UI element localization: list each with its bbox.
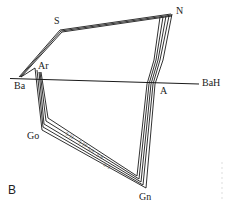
- landmark-gn-label: Gn: [139, 192, 151, 202]
- facial-tracings: [21, 14, 172, 188]
- landmark-ba-label: Ba: [14, 81, 25, 91]
- landmark-ar-label: Ar: [38, 61, 49, 71]
- tracings-svg: 5-11 5-10 5-9 5-8 0-3: [0, 0, 226, 207]
- panel-label: B: [8, 184, 16, 196]
- landmark-go-label: Go: [27, 131, 39, 141]
- landmark-bah-label: BaH: [202, 78, 220, 88]
- cephalometric-superimposition-diagram: 5-11 5-10 5-9 5-8 0-3 S N Ar Ba A BaH Go…: [0, 0, 226, 207]
- landmark-a-label: A: [160, 86, 167, 96]
- tracing-age-labels: 5-11 5-10 5-9 5-8 0-3: [65, 131, 112, 170]
- landmark-n-label: N: [176, 6, 183, 16]
- landmark-s-label: S: [54, 16, 60, 26]
